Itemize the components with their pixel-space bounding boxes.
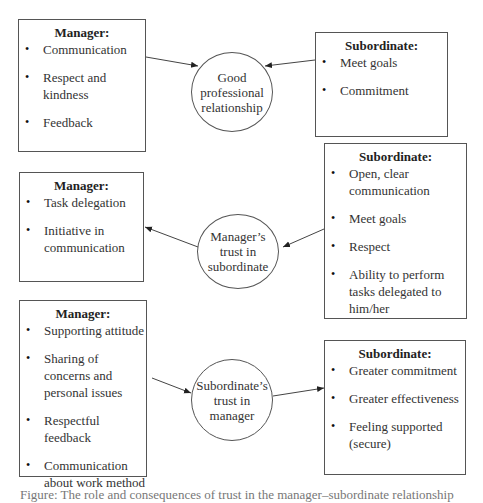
arrow-trust-to-manager xyxy=(145,227,198,247)
figure-caption: Figure: The role and consequences of tru… xyxy=(20,487,454,503)
arrow-manager-to-subtrust xyxy=(152,378,191,393)
arrow-subordinate-to-trust xyxy=(283,229,324,247)
arrow-manager-to-relationship xyxy=(146,57,198,66)
arrow-subordinate-to-relationship xyxy=(265,60,315,66)
arrow-subtrust-to-subordinate xyxy=(273,388,324,396)
